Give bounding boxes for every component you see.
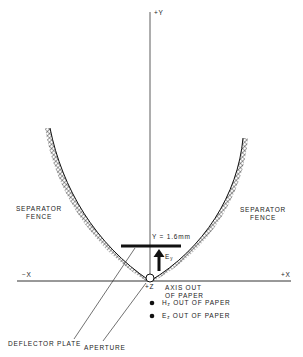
x-axis-positive-label: +X <box>281 271 291 279</box>
legend-dot-hz <box>150 301 155 306</box>
left-fence-label-line1: SEPARATOR <box>12 205 66 213</box>
legend-ez: Ez OUT OF PAPER <box>162 312 230 322</box>
aperture-circle <box>146 274 154 282</box>
field-ey-sub: y <box>170 256 173 261</box>
right-fence-label: SEPARATOR FENCE <box>236 206 290 222</box>
field-arrow-icon <box>154 249 165 271</box>
legend-ez-text: OUT OF PAPER <box>170 312 230 319</box>
field-ey-label: Ey <box>165 253 173 263</box>
right-fence-label-line1: SEPARATOR <box>236 206 290 214</box>
aperture-callout: APERTURE <box>84 344 126 352</box>
x-axis-negative-label: −X <box>22 271 32 279</box>
aperture-leader-line <box>103 283 146 341</box>
left-fence-label: SEPARATOR FENCE <box>12 205 66 221</box>
legend-hz-text: OUT OF PAPER <box>171 299 231 306</box>
deflector-leader-line <box>74 248 135 339</box>
z-axis-label: +Z <box>145 283 154 291</box>
plate-height-label: Y = 1.6mm <box>152 233 191 241</box>
legend-hz: Hz OUT OF PAPER <box>162 299 231 309</box>
y-axis-label: +Y <box>154 9 164 17</box>
right-fence-label-line2: FENCE <box>236 214 290 222</box>
legend-dot-ez <box>150 314 155 319</box>
z-axis-note-line1: AXIS OUT <box>165 284 202 292</box>
separator-diagram <box>0 0 303 357</box>
deflector-plate-callout: DEFLECTOR PLATE <box>8 340 81 348</box>
left-fence-label-line2: FENCE <box>12 213 66 221</box>
